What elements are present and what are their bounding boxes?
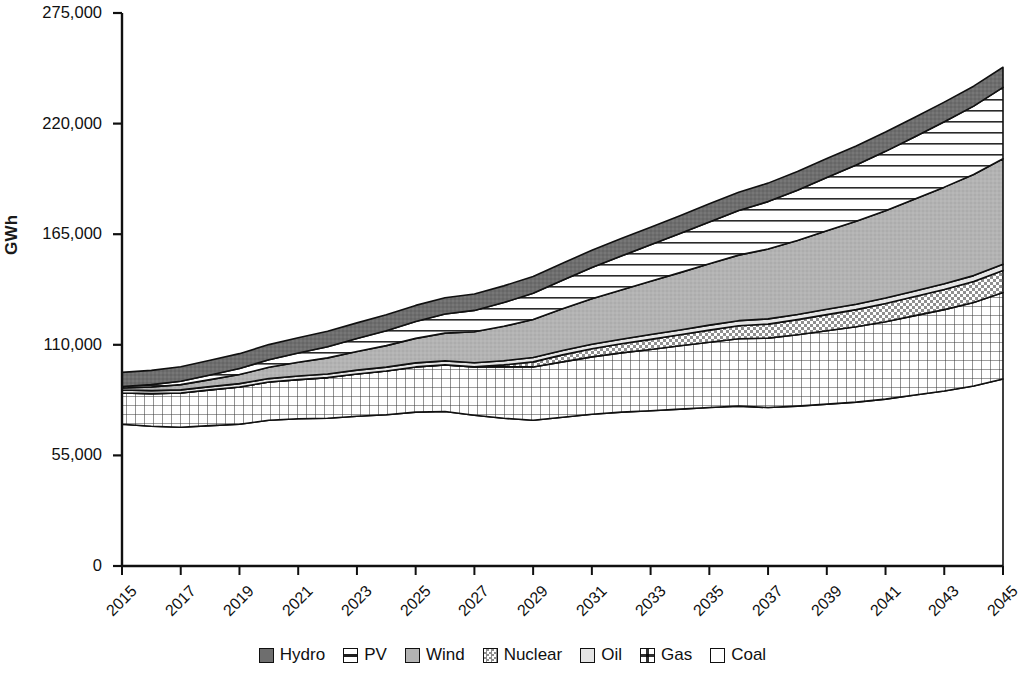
chart-legend: HydroPVWindNuclearOilGasCoal <box>0 645 1025 665</box>
y-axis-tick-label: 55,000 <box>10 445 102 464</box>
y-axis-tick-label: 275,000 <box>10 3 102 22</box>
legend-label: Oil <box>601 645 622 665</box>
hydro-swatch <box>259 648 274 663</box>
y-axis-tick-label: 220,000 <box>10 114 102 133</box>
legend-item-pv: PV <box>343 645 387 665</box>
legend-label: Gas <box>661 645 692 665</box>
coal-swatch <box>710 648 725 663</box>
stacked-area-chart <box>0 0 1025 674</box>
chart-areas <box>122 67 1003 566</box>
legend-label: PV <box>364 645 387 665</box>
legend-item-hydro: Hydro <box>259 645 325 665</box>
oil-swatch <box>580 648 595 663</box>
legend-label: Wind <box>426 645 465 665</box>
legend-item-gas: Gas <box>640 645 692 665</box>
y-axis-tick-label: 0 <box>10 556 102 575</box>
legend-item-wind: Wind <box>405 645 465 665</box>
legend-label: Coal <box>731 645 766 665</box>
y-axis-tick-label: 165,000 <box>10 224 102 243</box>
gas-swatch <box>640 648 655 663</box>
chart-figure: GWh 055,000110,000165,000220,000275,000 … <box>0 0 1025 674</box>
nuclear-swatch <box>483 648 498 663</box>
y-axis-tick-label: 110,000 <box>10 335 102 354</box>
legend-label: Hydro <box>280 645 325 665</box>
pv-swatch <box>343 648 358 663</box>
wind-swatch <box>405 648 420 663</box>
legend-label: Nuclear <box>504 645 563 665</box>
legend-item-nuclear: Nuclear <box>483 645 563 665</box>
legend-item-oil: Oil <box>580 645 622 665</box>
legend-item-coal: Coal <box>710 645 766 665</box>
